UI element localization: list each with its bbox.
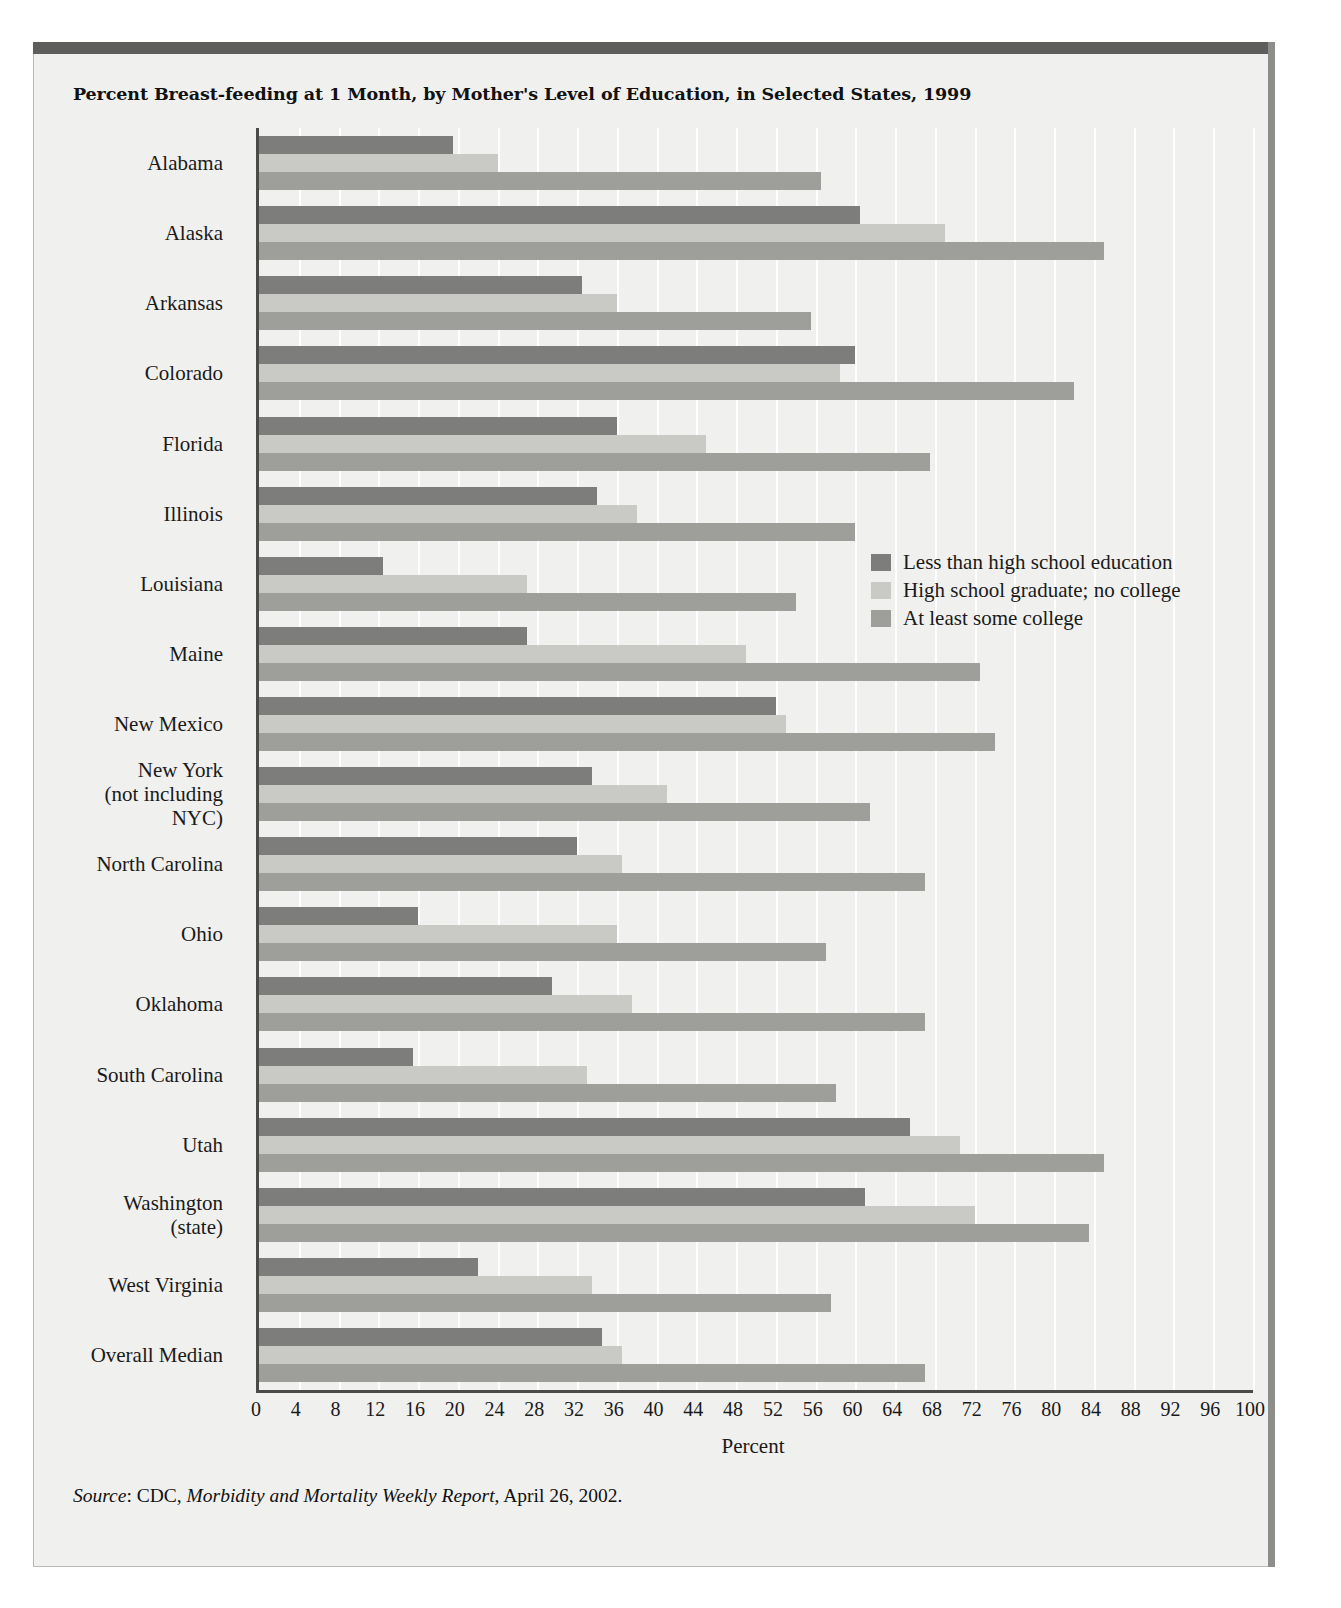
bar-1 [259, 785, 667, 803]
category-label-line: West Virginia [3, 1273, 223, 1297]
category-label-line: Illinois [3, 502, 223, 526]
source-publication: Morbidity and Mortality Weekly Report [187, 1485, 495, 1506]
bar-0 [259, 557, 383, 575]
bar-2 [259, 453, 930, 471]
plot-area: AlabamaAlaskaArkansasColoradoFloridaIlli… [256, 128, 1253, 1390]
x-tick-label: 80 [1041, 1398, 1061, 1421]
bar-group: Florida [259, 417, 1253, 471]
x-tick-label: 40 [644, 1398, 664, 1421]
category-label: Overall Median [3, 1343, 223, 1367]
source-date: April 26, 2002. [503, 1485, 622, 1506]
x-axis-ticks: 0481216202428323640444852566064687276808… [256, 1398, 1250, 1428]
bar-0 [259, 136, 453, 154]
x-tick-label: 28 [524, 1398, 544, 1421]
bar-0 [259, 1048, 413, 1066]
chart-page: Percent Breast-feeding at 1 Month, by Mo… [0, 0, 1341, 1608]
bar-1 [259, 364, 840, 382]
category-label: New Mexico [3, 712, 223, 736]
bar-group: Illinois [259, 487, 1253, 541]
category-label-line: North Carolina [3, 852, 223, 876]
x-tick-label: 92 [1160, 1398, 1180, 1421]
category-label-line: Alaska [3, 221, 223, 245]
bar-1 [259, 1066, 587, 1084]
chart-legend: Less than high school educationHigh scho… [871, 548, 1181, 632]
x-axis-line [256, 1390, 1253, 1393]
category-label: Utah [3, 1133, 223, 1157]
bar-2 [259, 1224, 1089, 1242]
category-label: Louisiana [3, 572, 223, 596]
x-tick-label: 88 [1121, 1398, 1141, 1421]
source-label: Source [73, 1485, 126, 1506]
bar-1 [259, 855, 622, 873]
bar-0 [259, 977, 552, 995]
bar-group: Alaska [259, 206, 1253, 260]
category-label: Washington(state) [3, 1191, 223, 1239]
bar-1 [259, 1206, 975, 1224]
category-label: Oklahoma [3, 992, 223, 1016]
bar-group: North Carolina [259, 837, 1253, 891]
category-label-line: South Carolina [3, 1063, 223, 1087]
legend-item: Less than high school education [871, 548, 1181, 576]
legend-swatch-icon [871, 610, 891, 627]
category-label-line: Ohio [3, 922, 223, 946]
bar-rows: AlabamaAlaskaArkansasColoradoFloridaIlli… [259, 128, 1253, 1390]
x-tick-label: 68 [922, 1398, 942, 1421]
bar-0 [259, 206, 860, 224]
bar-1 [259, 1346, 622, 1364]
category-label-line: Overall Median [3, 1343, 223, 1367]
bar-1 [259, 575, 527, 593]
bar-group: West Virginia [259, 1258, 1253, 1312]
x-tick-label: 36 [604, 1398, 624, 1421]
category-label: South Carolina [3, 1063, 223, 1087]
bar-group: Arkansas [259, 276, 1253, 330]
category-label: Alaska [3, 221, 223, 245]
bar-group: Maine [259, 627, 1253, 681]
category-label: Ohio [3, 922, 223, 946]
bar-2 [259, 1364, 925, 1382]
bar-0 [259, 1188, 865, 1206]
legend-swatch-icon [871, 582, 891, 599]
bar-0 [259, 346, 855, 364]
bar-group: Washington(state) [259, 1188, 1253, 1242]
bar-group: New York(not includingNYC) [259, 767, 1253, 821]
category-label: Colorado [3, 361, 223, 385]
category-label: New York(not includingNYC) [3, 758, 223, 830]
x-tick-label: 4 [291, 1398, 301, 1421]
bar-0 [259, 417, 617, 435]
x-tick-label: 72 [962, 1398, 982, 1421]
bar-0 [259, 1258, 478, 1276]
gridline [1253, 128, 1255, 1390]
bar-group: Alabama [259, 136, 1253, 190]
chart-title: Percent Breast-feeding at 1 Month, by Mo… [73, 84, 1223, 104]
x-tick-label: 0 [251, 1398, 261, 1421]
bar-0 [259, 767, 592, 785]
bar-1 [259, 224, 945, 242]
x-tick-label: 64 [882, 1398, 902, 1421]
bar-2 [259, 663, 980, 681]
category-label-line: Oklahoma [3, 992, 223, 1016]
legend-label: Less than high school education [903, 550, 1172, 575]
source-note: Source: CDC, Morbidity and Mortality Wee… [73, 1485, 622, 1507]
source-sep3: , [495, 1485, 504, 1506]
bar-1 [259, 505, 637, 523]
bar-group: Utah [259, 1118, 1253, 1172]
x-axis-label: Percent [256, 1434, 1250, 1459]
bar-0 [259, 1118, 910, 1136]
x-tick-label: 24 [485, 1398, 505, 1421]
bar-0 [259, 837, 577, 855]
bar-2 [259, 1084, 836, 1102]
bar-group: New Mexico [259, 697, 1253, 751]
category-label-line: Utah [3, 1133, 223, 1157]
bar-2 [259, 172, 821, 190]
category-label: West Virginia [3, 1273, 223, 1297]
bar-1 [259, 995, 632, 1013]
bar-1 [259, 1136, 960, 1154]
bar-group: Ohio [259, 907, 1253, 961]
bar-0 [259, 697, 776, 715]
x-tick-label: 100 [1235, 1398, 1265, 1421]
bar-2 [259, 803, 870, 821]
bar-0 [259, 627, 527, 645]
bar-0 [259, 487, 597, 505]
bar-group: Colorado [259, 346, 1253, 400]
legend-item: High school graduate; no college [871, 576, 1181, 604]
